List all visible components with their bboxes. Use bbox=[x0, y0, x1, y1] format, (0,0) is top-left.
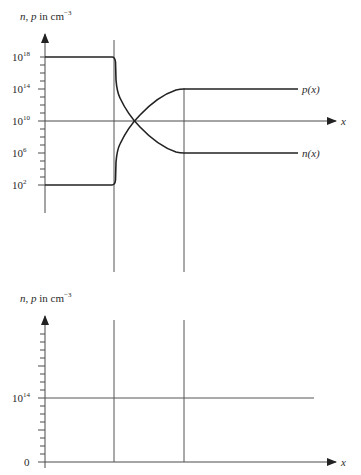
tick-label-bottom-1e14: 1014 bbox=[12, 391, 31, 404]
top-x-axis-label: x bbox=[340, 115, 346, 127]
bottom-chart: n, p in cm−3 1014 0 x bbox=[12, 291, 346, 468]
tick-label-1e14: 1014 bbox=[12, 82, 31, 95]
top-y-ticks bbox=[38, 57, 45, 185]
bottom-y-ticks bbox=[38, 334, 45, 462]
tick-label-1e10: 1010 bbox=[12, 114, 31, 127]
tick-label-1e6: 106 bbox=[12, 146, 27, 159]
bottom-x-axis-label: x bbox=[340, 456, 346, 468]
tick-label-1e2: 102 bbox=[12, 178, 27, 191]
bottom-y-axis-label: n, p in cm−3 bbox=[20, 291, 72, 304]
n-curve bbox=[45, 57, 298, 153]
p-curve-label: p(x) bbox=[301, 83, 320, 96]
n-curve-label: n(x) bbox=[302, 147, 320, 160]
pn-junction-diagram: n, p in cm−3 1018 1014 1010 bbox=[0, 0, 361, 475]
top-y-axis-label: n, p in cm−3 bbox=[20, 9, 72, 22]
p-curve bbox=[45, 89, 298, 185]
tick-label-bottom-0: 0 bbox=[24, 456, 30, 468]
tick-label-1e18: 1018 bbox=[12, 50, 31, 63]
top-chart: n, p in cm−3 1018 1014 1010 bbox=[12, 9, 346, 272]
